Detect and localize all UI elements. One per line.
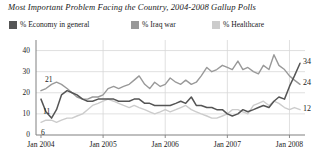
series-line-healthcare: [41, 99, 300, 122]
legend-swatch-iraq: [131, 21, 139, 29]
legend-label-economy: % Economy in general: [20, 20, 89, 29]
end-value-label-iraq: 24: [303, 78, 311, 87]
start-value-label-iraq: 21: [45, 75, 53, 84]
y-tick-label: 30: [14, 67, 30, 76]
chart-legend: % Economy in general % Iraq war % Health…: [9, 18, 319, 31]
legend-item-iraq[interactable]: % Iraq war: [131, 18, 176, 31]
y-tick-label: 20: [14, 88, 30, 97]
legend-item-economy[interactable]: % Economy in general: [9, 18, 89, 31]
x-tick-label: Jan 2007: [200, 140, 254, 149]
y-tick-label: 40: [14, 46, 30, 55]
x-tick-label: Jan 2006: [138, 140, 192, 149]
plot-area: 010203040Jan 2004Jan 2005Jan 2006Jan 200…: [0, 33, 331, 157]
legend-item-healthcare[interactable]: % Healthcare: [212, 18, 264, 31]
x-tick-label: Jan 2008: [262, 140, 316, 149]
x-tick-label: Jan 2004: [14, 140, 68, 149]
legend-label-iraq: % Iraq war: [142, 20, 176, 29]
y-tick-label: 0: [14, 130, 30, 139]
chart-svg: [0, 33, 331, 157]
y-tick-label: 10: [14, 109, 30, 118]
end-value-label-economy: 34: [303, 57, 311, 66]
end-value-label-healthcare: 12: [303, 104, 311, 113]
start-value-label-healthcare: 6: [41, 128, 45, 137]
chart-page: Most Important Problem Facing the Countr…: [0, 0, 331, 157]
legend-swatch-economy: [9, 21, 17, 29]
start-value-label-economy: 11: [43, 107, 50, 116]
legend-label-healthcare: % Healthcare: [223, 20, 264, 29]
legend-swatch-healthcare: [212, 21, 220, 29]
x-tick-label: Jan 2005: [76, 140, 130, 149]
chart-title: Most Important Problem Facing the Countr…: [8, 2, 323, 12]
